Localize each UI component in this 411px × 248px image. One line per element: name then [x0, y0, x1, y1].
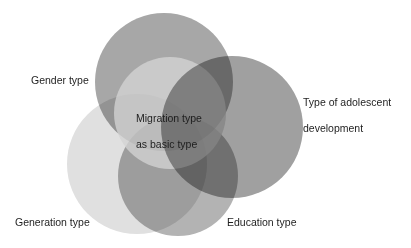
- adolescent-label-line1: Type of adolescent: [303, 96, 391, 109]
- migration-label-line1: Migration type: [136, 112, 202, 125]
- adolescent-development-label: Type of adolescent development: [303, 83, 391, 148]
- migration-label-line2: as basic type: [136, 138, 202, 151]
- adolescent-label-line2: development: [303, 122, 391, 135]
- generation-type-label: Generation type: [15, 216, 90, 229]
- migration-type-label: Migration type as basic type: [136, 99, 202, 164]
- education-type-label: Education type: [227, 216, 296, 229]
- gender-type-label: Gender type: [31, 74, 89, 87]
